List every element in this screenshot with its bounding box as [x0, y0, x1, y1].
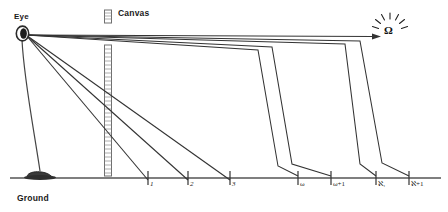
canvas-label: Canvas [118, 8, 149, 18]
axis-tick-label: 3 [232, 180, 236, 188]
arrowhead-icon [372, 33, 381, 39]
sight-rays-transfinite [26, 35, 409, 176]
pedestal-stem [22, 40, 40, 171]
ray-to-omega [26, 35, 298, 176]
ray-to-aleph-1 [26, 35, 376, 176]
eye-label: Eye [14, 12, 29, 21]
axis-tick-label: 1 [150, 180, 154, 188]
eye-icon [16, 26, 28, 41]
ground-label: Ground [17, 193, 49, 203]
axis-tick-label: ℵ₁ [378, 180, 385, 188]
axis-tick-label: ℵ+1 [411, 180, 423, 188]
ray-to-aleph-plus-1 [26, 35, 409, 176]
diagram-canvas: Eye Canvas Ground Ω 123ωω+1ℵ₁ℵ+1 [0, 0, 448, 212]
ray-to-3 [26, 35, 230, 180]
sight-rays-finite [26, 35, 230, 180]
ray-to-1 [26, 35, 148, 180]
ray-to-omega-plus-1 [26, 35, 331, 176]
axis-tick-label: ω [300, 180, 305, 188]
omega-label: Ω [384, 24, 393, 36]
pedestal-base [24, 175, 56, 180]
axis-tick-label: ω+1 [333, 180, 345, 188]
axis-tick-label: 2 [190, 180, 194, 188]
